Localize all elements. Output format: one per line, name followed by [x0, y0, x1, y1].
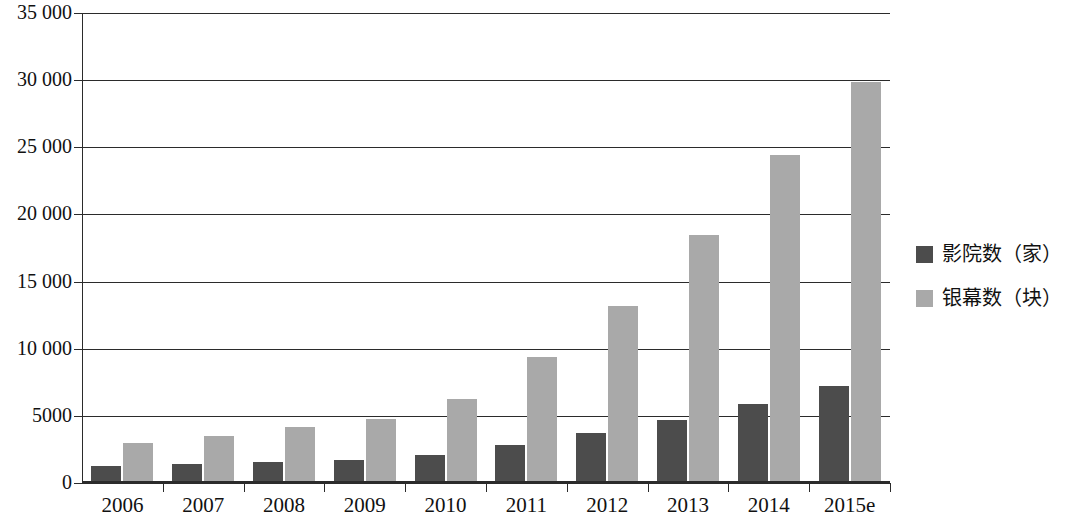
y-axis-tick-mark	[74, 13, 82, 14]
bar-chart: 0500010 00015 00020 00025 00030 00035 00…	[0, 0, 1065, 526]
bar	[657, 420, 687, 483]
legend-item-theaters: 影院数（家）	[916, 232, 1062, 276]
bar	[527, 357, 557, 483]
x-axis-tick-mark	[890, 483, 891, 492]
bar	[253, 462, 283, 483]
x-axis-tick-label: 2008	[244, 494, 325, 516]
gridline	[82, 147, 890, 148]
x-axis-tick-mark	[809, 483, 810, 492]
bar	[819, 386, 849, 483]
bar	[851, 82, 881, 484]
bar	[770, 155, 800, 483]
y-axis-tick-label: 30 000	[0, 69, 72, 89]
legend-swatch-theaters	[916, 246, 933, 263]
plot-area	[82, 13, 890, 483]
y-axis-tick-mark	[74, 416, 82, 417]
x-axis-tick-mark	[324, 483, 325, 492]
gridline	[82, 13, 890, 14]
gridline	[82, 416, 890, 417]
bar	[204, 436, 234, 483]
bar	[495, 445, 525, 483]
legend-swatch-screens	[916, 290, 933, 307]
bar	[608, 306, 638, 483]
gridline	[82, 214, 890, 215]
x-axis-tick-label: 2010	[405, 494, 486, 516]
x-axis-tick-label: 2013	[648, 494, 729, 516]
bar	[415, 455, 445, 483]
y-axis-tick-mark	[74, 147, 82, 148]
gridline	[82, 80, 890, 81]
x-axis-tick-label: 2009	[324, 494, 405, 516]
x-axis-tick-mark	[163, 483, 164, 492]
y-axis-tick-label: 0	[0, 472, 72, 492]
y-axis-tick-mark	[74, 483, 82, 484]
y-axis-tick-mark	[74, 214, 82, 215]
bar	[366, 419, 396, 483]
y-axis-tick-mark	[74, 282, 82, 283]
bar	[738, 404, 768, 483]
y-axis-tick-label: 15 000	[0, 271, 72, 291]
x-axis-tick-label: 2015e	[809, 494, 890, 516]
x-axis-tick-label: 2007	[163, 494, 244, 516]
bar	[334, 460, 364, 483]
x-axis-tick-mark	[244, 483, 245, 492]
x-axis-tick-mark	[486, 483, 487, 492]
x-axis-tick-mark	[728, 483, 729, 492]
y-axis-tick-label: 10 000	[0, 338, 72, 358]
bar	[285, 427, 315, 483]
x-axis-tick-mark	[648, 483, 649, 492]
bar	[576, 433, 606, 483]
legend-label-screens: 银幕数（块）	[942, 287, 1062, 309]
y-axis-tick-label: 25 000	[0, 136, 72, 156]
y-axis-tick-label: 20 000	[0, 203, 72, 223]
x-axis-tick-mark	[405, 483, 406, 492]
x-axis-tick-label: 2011	[486, 494, 567, 516]
x-axis-tick-mark	[567, 483, 568, 492]
y-axis-tick-mark	[74, 80, 82, 81]
y-axis-line	[82, 13, 83, 483]
gridline	[82, 349, 890, 350]
x-axis-tick-label: 2006	[82, 494, 163, 516]
y-axis-tick-label: 5000	[0, 405, 72, 425]
chart-legend: 影院数（家） 银幕数（块）	[916, 232, 1062, 320]
legend-label-theaters: 影院数（家）	[942, 243, 1062, 265]
bar	[689, 235, 719, 483]
gridline	[82, 282, 890, 283]
y-axis-tick-mark	[74, 349, 82, 350]
x-axis-tick-label: 2012	[567, 494, 648, 516]
y-axis-tick-label: 35 000	[0, 2, 72, 22]
legend-item-screens: 银幕数（块）	[916, 276, 1062, 320]
bar	[447, 399, 477, 483]
bar	[123, 443, 153, 483]
x-axis-tick-label: 2014	[728, 494, 809, 516]
